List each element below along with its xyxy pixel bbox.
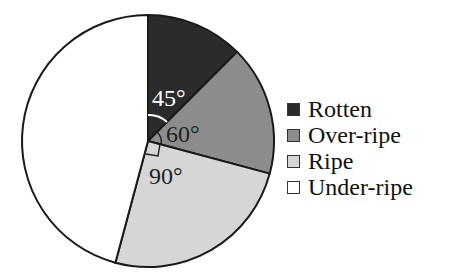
label-overripe-angle: 60° xyxy=(166,121,200,147)
pie-slices xyxy=(22,15,274,267)
swatch-ripe xyxy=(287,155,300,168)
legend-item-under-ripe: Under-ripe xyxy=(287,174,413,200)
legend-item-over-ripe: Over-ripe xyxy=(287,122,413,148)
legend-label: Over-ripe xyxy=(308,122,401,148)
swatch-under-ripe xyxy=(287,181,300,194)
legend-label: Under-ripe xyxy=(308,174,413,200)
label-ripe-angle: 90° xyxy=(149,163,183,189)
swatch-over-ripe xyxy=(287,129,300,142)
legend-item-rotten: Rotten xyxy=(287,96,413,122)
label-rotten-angle: 45° xyxy=(152,85,186,111)
legend: Rotten Over-ripe Ripe Under-ripe xyxy=(287,96,413,200)
legend-label: Ripe xyxy=(308,148,353,174)
legend-item-ripe: Ripe xyxy=(287,148,413,174)
legend-label: Rotten xyxy=(308,96,372,122)
swatch-rotten xyxy=(287,103,300,116)
